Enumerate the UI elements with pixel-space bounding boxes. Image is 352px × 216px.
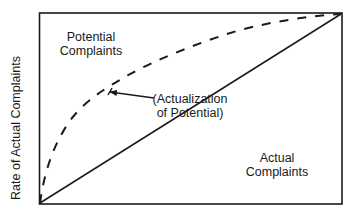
actual-label-line2: Complaints xyxy=(242,165,312,179)
actual-complaints-label: Actual Complaints xyxy=(242,151,312,179)
complaints-diagram: Rate of Actual Complaints Potential Comp… xyxy=(0,0,352,216)
annotation-line1: (Actualization xyxy=(150,92,230,106)
annotation-arrow xyxy=(110,92,154,98)
actual-label-line1: Actual xyxy=(242,151,312,165)
annotation-line2: of Potential) xyxy=(150,106,230,120)
y-axis-label: Rate of Actual Complaints xyxy=(9,56,23,200)
potential-complaints-label: Potential Complaints xyxy=(56,30,126,58)
potential-label-line1: Potential xyxy=(56,30,126,44)
actualization-annotation: (Actualization of Potential) xyxy=(150,92,230,120)
potential-label-line2: Complaints xyxy=(56,44,126,58)
